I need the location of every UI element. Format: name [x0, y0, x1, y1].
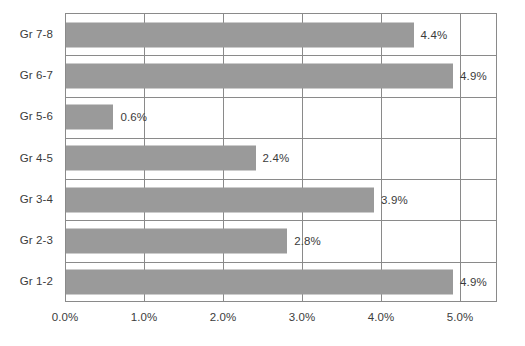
category-label: Gr 3-4: [20, 193, 53, 205]
plot-area: 4.4%4.9%0.6%2.4%3.9%2.8%4.9%: [65, 13, 497, 302]
bar: [66, 187, 374, 212]
x-tick-label: 1.0%: [131, 311, 158, 323]
bar-value-label: 4.9%: [460, 70, 487, 82]
bar: [66, 22, 414, 47]
x-tick-label: 3.0%: [289, 311, 316, 323]
bar-row: 4.9%: [66, 55, 496, 96]
bar-value-label: 4.9%: [460, 276, 487, 288]
x-tick-label: 5.0%: [447, 311, 474, 323]
category-label: Gr 7-8: [20, 28, 53, 40]
bar-value-label: 2.8%: [294, 235, 321, 247]
bar: [66, 270, 453, 295]
x-tick-label: 2.0%: [210, 311, 237, 323]
category-label: Gr 5-6: [20, 110, 53, 122]
bar-row: 0.6%: [66, 97, 496, 138]
bar-value-label: 0.6%: [120, 111, 147, 123]
x-tick-label: 4.0%: [368, 311, 395, 323]
bar-row: 2.4%: [66, 138, 496, 179]
bar-value-label: 3.9%: [381, 194, 408, 206]
bar-row: 4.4%: [66, 14, 496, 55]
bar-row: 4.9%: [66, 262, 496, 303]
category-label: Gr 2-3: [20, 234, 53, 246]
category-label: Gr 6-7: [20, 69, 53, 81]
bar-row: 2.8%: [66, 220, 496, 261]
x-tick-label: 0.0%: [52, 311, 79, 323]
bar: [66, 63, 453, 88]
category-label: Gr 1-2: [20, 275, 53, 287]
bar-value-label: 2.4%: [263, 152, 290, 164]
bar: [66, 105, 113, 130]
bar-row: 3.9%: [66, 179, 496, 220]
bar: [66, 146, 256, 171]
bar-value-label: 4.4%: [421, 29, 448, 41]
bar-chart: 4.4%4.9%0.6%2.4%3.9%2.8%4.9% Gr 7-8Gr 6-…: [0, 0, 525, 346]
bar: [66, 229, 287, 254]
category-label: Gr 4-5: [20, 152, 53, 164]
